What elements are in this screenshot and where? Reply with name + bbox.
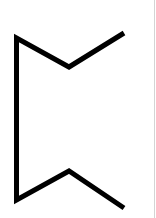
rune-glyph-icon	[0, 0, 156, 218]
glyph-stroke	[17, 33, 125, 208]
right-edge-divider	[154, 0, 155, 218]
figure-canvas	[0, 0, 156, 218]
